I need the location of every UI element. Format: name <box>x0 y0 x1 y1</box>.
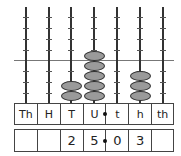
rod-tick-mark <box>68 71 74 72</box>
rod-tick-mark <box>23 71 29 72</box>
digit-thousands <box>14 129 38 152</box>
rod-tick-mark <box>68 39 74 40</box>
rod-tick-mark <box>91 17 97 18</box>
rod-tick-mark <box>114 17 120 18</box>
bead-units-2 <box>84 81 105 91</box>
rod-tick-mark <box>46 50 52 51</box>
digit-hundredths: 3 <box>128 129 152 152</box>
rod-tick-mark <box>23 39 29 40</box>
rod-tick-mark <box>46 28 52 29</box>
decimal-point <box>103 112 107 116</box>
rod-tick-mark <box>91 39 97 40</box>
rod-tick-mark <box>160 28 166 29</box>
bead-hundredths-3 <box>130 71 151 81</box>
rod-tick-mark <box>114 93 120 94</box>
rod-tick-mark <box>137 39 143 40</box>
digit-tens: 2 <box>60 129 84 152</box>
place-value-digit-row: 2 5 0 3 <box>14 129 174 152</box>
rod-tick-mark <box>68 28 74 29</box>
rod-tick-mark <box>114 82 120 83</box>
rod-tick-mark <box>46 17 52 18</box>
bead-units-3 <box>84 71 105 81</box>
rod-tick-mark <box>114 50 120 51</box>
rod-tick-mark <box>46 71 52 72</box>
rod-tick-mark <box>114 71 120 72</box>
rod-thousands <box>25 7 27 103</box>
header-hundreds: H <box>37 103 61 125</box>
header-tenths: t <box>105 103 129 125</box>
rod-hundreds <box>48 7 50 103</box>
rod-tick-mark <box>23 17 29 18</box>
digit-tenths: 0 <box>105 129 129 152</box>
rod-tick-mark <box>137 17 143 18</box>
rod-tick-mark <box>68 50 74 51</box>
rod-tick-mark <box>23 93 29 94</box>
rod-thousandths <box>162 7 164 103</box>
digit-thousandths <box>151 129 174 152</box>
rod-tick-mark <box>160 93 166 94</box>
header-tenths-label: t <box>115 108 119 121</box>
rod-tenths <box>116 7 118 103</box>
rod-tick-mark <box>160 82 166 83</box>
bead-hundredths-1 <box>130 91 151 101</box>
rod-tick-mark <box>137 50 143 51</box>
rod-tick-mark <box>23 28 29 29</box>
header-hundredths: h <box>128 103 152 125</box>
rod-tick-mark <box>46 82 52 83</box>
bead-hundredths-2 <box>130 81 151 91</box>
rod-tick-mark <box>114 28 120 29</box>
rod-tick-mark <box>160 71 166 72</box>
bead-units-1 <box>84 91 105 101</box>
bead-tens-1 <box>61 91 82 101</box>
rod-tick-mark <box>160 50 166 51</box>
place-value-header-row: Th H T U t h th <box>14 103 174 125</box>
rod-tick-mark <box>23 50 29 51</box>
decimal-point <box>103 139 107 143</box>
rod-tick-mark <box>114 39 120 40</box>
header-thousands: Th <box>14 103 38 125</box>
bead-units-4 <box>84 61 105 71</box>
rod-tick-mark <box>91 28 97 29</box>
bead-tens-2 <box>61 81 82 91</box>
rod-tick-mark <box>160 39 166 40</box>
digit-hundreds <box>37 129 61 152</box>
bead-units-5 <box>84 51 105 61</box>
rod-tick-mark <box>68 17 74 18</box>
abacus <box>0 0 181 103</box>
rod-tick-mark <box>46 93 52 94</box>
digit-tenths-value: 0 <box>113 133 121 148</box>
header-tens: T <box>60 103 84 125</box>
header-thousandths: th <box>151 103 174 125</box>
rod-tick-mark <box>46 39 52 40</box>
rod-tick-mark <box>137 28 143 29</box>
rod-tick-mark <box>160 17 166 18</box>
rod-tick-mark <box>23 82 29 83</box>
